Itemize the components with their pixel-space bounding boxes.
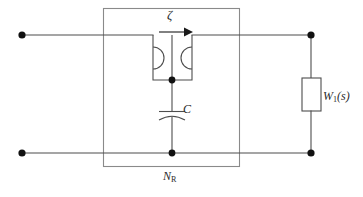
load-block-label: W1(s) [323,90,350,104]
circuit-schematic-canvas [0,0,363,197]
input-terminal-bottom-left [18,149,25,156]
zeta-current-label: ζ [167,8,172,21]
nullor-right-cell-outline [172,35,192,80]
network-block-label-subscript: R [171,175,176,184]
load-block-label-argument: (s) [337,89,350,103]
output-terminal-bottom-right [307,149,314,156]
nullor-left-cell-outline [153,35,172,80]
load-block-label-main: W [323,89,333,103]
capacitor-label: C [183,103,191,115]
network-block-label: NR [163,170,176,184]
nullor-output-junction-dot [169,77,176,84]
network-block-label-main: N [163,169,171,183]
nullor-left-semicircle-icon [153,47,164,69]
nullor-right-semicircle-icon [181,47,192,69]
load-impedance-block [302,78,321,111]
circuit-figure: ζ C NR W1(s) [0,0,363,197]
ground-rail-junction-dot [169,150,176,157]
input-terminal-top-left [18,31,25,38]
output-terminal-top-right [307,31,314,38]
